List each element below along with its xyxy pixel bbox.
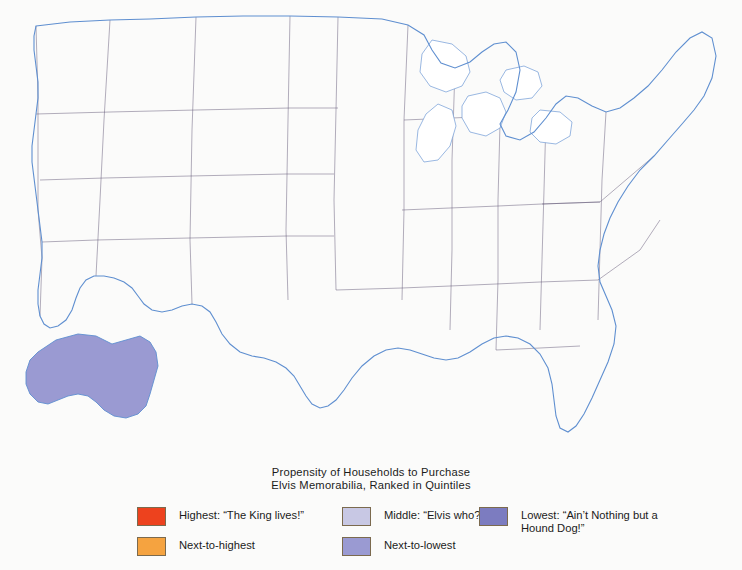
map-legend: Highest: “The King lives!” Next-to-highe… — [0, 503, 742, 565]
legend-label-lowest: Lowest: “Ain’t Nothing but a Hound Dog!” — [521, 507, 658, 534]
legend-item-highest: Highest: “The King lives!” — [137, 507, 304, 526]
legend-swatch-next-to-highest — [137, 537, 166, 556]
map-page: Propensity of Households to Purchase Elv… — [0, 0, 742, 570]
legend-label-middle: Middle: “Elvis who?” — [384, 507, 484, 522]
caption-line-2: Elvis Memorabilia, Ranked in Quintiles — [0, 479, 742, 492]
us-county-map-svg — [0, 0, 742, 462]
map-caption: Propensity of Households to Purchase Elv… — [0, 466, 742, 492]
legend-item-next-to-highest: Next-to-highest — [137, 537, 255, 556]
legend-item-middle: Middle: “Elvis who?” — [342, 507, 484, 526]
legend-label-next-to-highest: Next-to-highest — [179, 537, 255, 552]
legend-item-lowest: Lowest: “Ain’t Nothing but a Hound Dog!” — [479, 507, 658, 534]
choropleth-map — [0, 0, 742, 462]
legend-swatch-middle — [342, 507, 371, 526]
legend-label-next-to-lowest: Next-to-lowest — [384, 537, 456, 552]
legend-swatch-next-to-lowest — [342, 537, 371, 556]
legend-label-highest: Highest: “The King lives!” — [179, 507, 304, 522]
caption-line-1: Propensity of Households to Purchase — [0, 466, 742, 479]
legend-swatch-highest — [137, 507, 166, 526]
legend-item-next-to-lowest: Next-to-lowest — [342, 537, 456, 556]
legend-swatch-lowest — [479, 507, 508, 526]
